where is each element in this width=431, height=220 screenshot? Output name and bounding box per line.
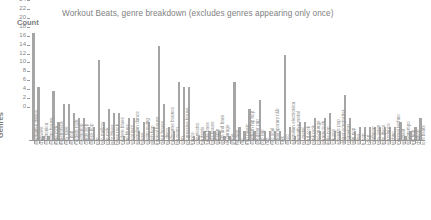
- y-axis-tick-mark: [27, 0, 30, 1]
- y-axis-tick-mark: [27, 71, 30, 72]
- y-axis-tick-mark: [27, 9, 30, 10]
- y-axis-tick-mark: [27, 36, 30, 37]
- chart-root: Workout Beats, genre breakdown (excludes…: [0, 0, 431, 220]
- y-axis-tick-mark: [27, 62, 30, 63]
- y-axis-tick-mark: [27, 18, 30, 19]
- y-axis-tick-label: 10: [19, 58, 26, 64]
- y-axis-tick-label: 16: [19, 32, 26, 38]
- y-axis-tick-mark: [27, 80, 30, 81]
- y-axis: 024681012141618202224: [0, 0, 30, 108]
- x-axis-title: Genres: [0, 112, 5, 138]
- x-axis-tick-label: lo-fi beats: [422, 125, 427, 145]
- y-axis-tick-mark: [27, 54, 30, 55]
- y-axis-tick-mark: [27, 45, 30, 46]
- y-axis-tick-label: 6: [23, 76, 26, 82]
- chart-title: Workout Beats, genre breakdown (excludes…: [62, 9, 392, 18]
- y-axis-tick-label: 14: [19, 41, 26, 47]
- y-axis-tick-label: 2: [23, 94, 26, 100]
- bar[interactable]: [284, 55, 286, 140]
- y-axis-tick-label: 20: [19, 14, 26, 20]
- y-axis-tick-mark: [27, 107, 30, 108]
- y-axis-tick-label: 4: [23, 85, 26, 91]
- y-axis-tick-mark: [27, 98, 30, 99]
- y-axis-tick-label: 12: [19, 50, 26, 56]
- y-axis-tick-label: 18: [19, 23, 26, 29]
- y-axis-tick-label: 8: [23, 67, 26, 73]
- y-axis-tick-label: 22: [19, 5, 26, 11]
- y-axis-tick-mark: [27, 27, 30, 28]
- y-axis-tick-label: 0: [23, 103, 26, 109]
- y-axis-tick-mark: [27, 89, 30, 90]
- y-axis-tick-label: 24: [19, 0, 26, 2]
